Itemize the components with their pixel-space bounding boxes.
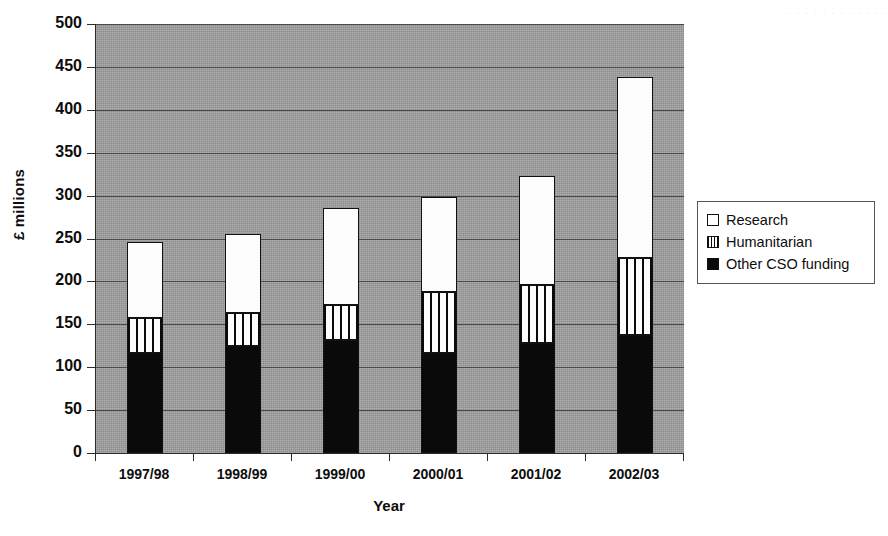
- legend-item-label: Humanitarian: [726, 234, 812, 250]
- bar-segment[interactable]: [127, 353, 163, 453]
- bar-segment[interactable]: [323, 305, 359, 339]
- bar-2002-03[interactable]: [617, 77, 653, 453]
- legend-item[interactable]: Research: [707, 209, 866, 231]
- bar-segment[interactable]: [127, 318, 163, 353]
- y-axis-tick: [87, 410, 95, 411]
- bar-segment[interactable]: [225, 234, 261, 313]
- bar-segment[interactable]: [323, 208, 359, 305]
- gridline: [96, 153, 684, 154]
- y-axis-tick-label: 150: [10, 314, 82, 332]
- y-axis-tick-label: 350: [10, 143, 82, 161]
- bar-segment[interactable]: [225, 346, 261, 453]
- y-axis-tick: [87, 324, 95, 325]
- y-axis-tick-label: 50: [10, 400, 82, 418]
- y-axis-tick: [87, 281, 95, 282]
- y-axis-tick: [87, 110, 95, 111]
- y-axis-tick-label-wrap: 150: [0, 324, 82, 325]
- y-axis-tick: [87, 67, 95, 68]
- y-axis-tick: [87, 367, 95, 368]
- y-axis-tick-label: 250: [10, 229, 82, 247]
- bar-segment[interactable]: [617, 335, 653, 453]
- y-axis-tick-label: 400: [10, 100, 82, 118]
- x-axis-title: Year: [95, 497, 683, 514]
- y-axis-tick-label: 0: [10, 443, 82, 461]
- striped-square-icon: [707, 236, 719, 248]
- x-axis-tick-label: 1997/98: [89, 466, 199, 482]
- y-axis-tick-label-wrap: 50: [0, 410, 82, 411]
- bar-segment[interactable]: [225, 313, 261, 346]
- bar-segment[interactable]: [421, 197, 457, 291]
- x-axis-tick-label: 2001/02: [481, 466, 591, 482]
- y-axis-tick: [87, 453, 95, 454]
- x-axis-tick: [389, 453, 390, 461]
- bar-segment[interactable]: [421, 353, 457, 453]
- bar-segment[interactable]: [617, 77, 653, 258]
- y-axis-tick-label: 300: [10, 186, 82, 204]
- y-axis-tick-label-wrap: 200: [0, 281, 82, 282]
- y-axis-tick-label-wrap: 250: [0, 239, 82, 240]
- gridline: [96, 281, 684, 282]
- x-axis-tick: [193, 453, 194, 461]
- x-axis-tick: [487, 453, 488, 461]
- x-axis-tick: [291, 453, 292, 461]
- bar-1999-00[interactable]: [323, 208, 359, 453]
- x-axis-tick: [585, 453, 586, 461]
- bar-segment[interactable]: [519, 343, 555, 453]
- bar-1998-99[interactable]: [225, 234, 261, 453]
- x-axis-tick-label: 2002/03: [579, 466, 689, 482]
- y-axis-tick: [87, 153, 95, 154]
- gridline: [96, 196, 684, 197]
- plot-area: [95, 24, 684, 454]
- y-axis-tick-label: 450: [10, 57, 82, 75]
- black-square-icon: [707, 258, 719, 270]
- bar-2000-01[interactable]: [421, 197, 457, 453]
- gridline: [96, 324, 684, 325]
- y-axis-tick-label-wrap: 350: [0, 153, 82, 154]
- y-axis-tick-label-wrap: 300: [0, 196, 82, 197]
- gridline: [96, 67, 684, 68]
- y-axis-tick-label: 500: [10, 14, 82, 32]
- bar-2001-02[interactable]: [519, 176, 555, 453]
- x-axis-tick: [683, 453, 684, 461]
- x-axis-tick-label: 1999/00: [285, 466, 395, 482]
- y-axis-tick-label-wrap: 500: [0, 24, 82, 25]
- legend-item[interactable]: Humanitarian: [707, 231, 866, 253]
- chart-legend: ResearchHumanitarianOther CSO funding: [697, 201, 875, 284]
- bar-segment[interactable]: [519, 285, 555, 343]
- y-axis-tick-label-wrap: 100: [0, 367, 82, 368]
- legend-item[interactable]: Other CSO funding: [707, 253, 866, 275]
- y-axis-tick-label: 100: [10, 357, 82, 375]
- plot-top-edge: [96, 24, 684, 25]
- x-axis-tick-label: 2000/01: [383, 466, 493, 482]
- y-axis-tick-label-wrap: 0: [0, 453, 82, 454]
- bar-segment[interactable]: [127, 242, 163, 318]
- bar-segment[interactable]: [421, 292, 457, 354]
- x-axis-tick: [95, 453, 96, 461]
- y-axis-tick: [87, 24, 95, 25]
- legend-item-label: Other CSO funding: [726, 256, 849, 272]
- y-axis-tick-label: 200: [10, 271, 82, 289]
- bar-segment[interactable]: [323, 340, 359, 453]
- bar-1997-98[interactable]: [127, 242, 163, 453]
- x-axis-tick-label: 1998/99: [187, 466, 297, 482]
- legend-item-label: Research: [726, 212, 788, 228]
- white-square-icon: [707, 214, 719, 226]
- y-axis-tick: [87, 196, 95, 197]
- bar-segment[interactable]: [617, 258, 653, 334]
- y-axis-tick: [87, 239, 95, 240]
- gridline: [96, 110, 684, 111]
- stacked-bar-chart: £ millions 05010015020025030035040045050…: [0, 0, 888, 536]
- y-axis-tick-label-wrap: 400: [0, 110, 82, 111]
- gridline: [96, 410, 684, 411]
- gridline: [96, 239, 684, 240]
- y-axis-tick-label-wrap: 450: [0, 67, 82, 68]
- gridline: [96, 367, 684, 368]
- bar-segment[interactable]: [519, 176, 555, 285]
